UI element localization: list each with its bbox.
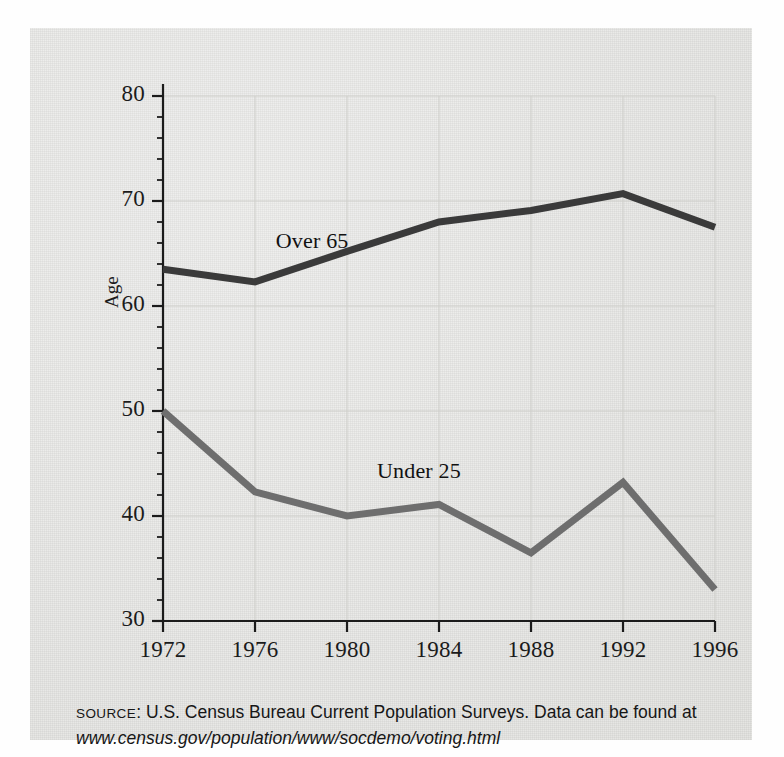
x-tick-label: 1980 — [307, 637, 387, 663]
x-tick-label: 1988 — [491, 637, 571, 663]
line-chart — [133, 40, 733, 635]
y-tick-label: 40 — [93, 501, 145, 527]
series-label-over-65: Over 65 — [276, 228, 349, 254]
source-word: SOURCE — [76, 706, 136, 721]
x-tick-label: 1984 — [399, 637, 479, 663]
y-tick-label: 80 — [93, 81, 145, 107]
x-tick-label: 1972 — [123, 637, 203, 663]
y-tick-label: 70 — [93, 186, 145, 212]
y-tick-label: 50 — [93, 396, 145, 422]
y-tick-label: 30 — [93, 606, 145, 632]
chart-gridlines — [163, 96, 715, 621]
series-label-under-25: Under 25 — [377, 458, 461, 484]
x-tick-label: 1976 — [215, 637, 295, 663]
chart-tick-marks — [152, 96, 715, 632]
y-tick-label: 60 — [93, 291, 145, 317]
figure-page: Age 304050607080 19721976198019841988199… — [0, 0, 784, 757]
source-text: : U.S. Census Bureau Current Population … — [136, 702, 696, 722]
x-tick-label: 1992 — [583, 637, 663, 663]
scanned-figure-panel: Age 304050607080 19721976198019841988199… — [30, 28, 752, 740]
x-tick-label: 1996 — [675, 637, 755, 663]
chart-plot-area: Age 304050607080 19721976198019841988199… — [133, 40, 733, 630]
source-url: www.census.gov/population/www/socdemo/vo… — [76, 728, 500, 748]
figure-source-caption: SOURCE: U.S. Census Bureau Current Popul… — [76, 700, 766, 751]
